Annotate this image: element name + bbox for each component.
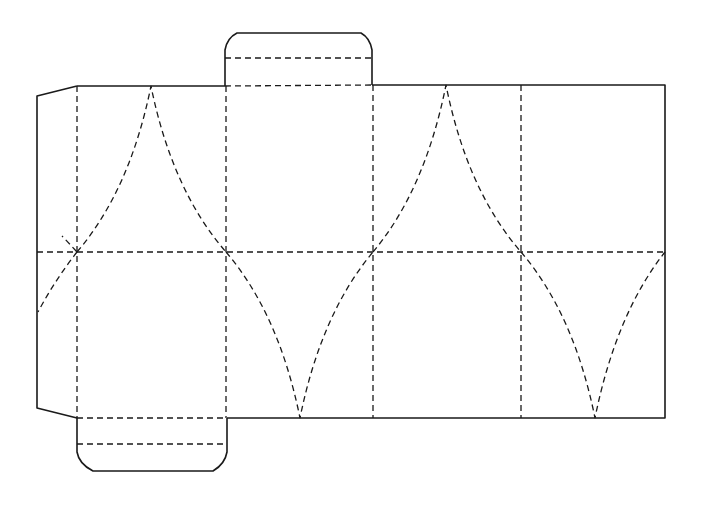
top-tab-outline — [225, 33, 372, 86]
arc-peak-1 — [77, 86, 226, 252]
fold-lines — [37, 58, 665, 444]
arc-flap-upper — [62, 236, 77, 252]
fold-top-tab-base — [225, 85, 372, 86]
arc-valley-1 — [226, 252, 373, 418]
arc-peak-2 — [373, 85, 521, 252]
arc-valley-2 — [521, 252, 665, 418]
arc-flap-lower — [38, 252, 77, 312]
box-net-diagram — [0, 0, 703, 510]
